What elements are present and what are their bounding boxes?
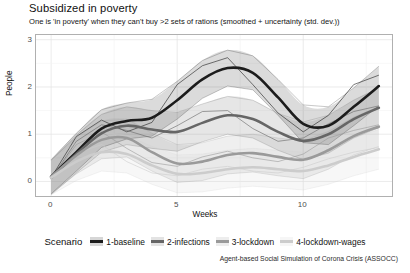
chart-figure: Subsidized in poverty One is 'in poverty… [0, 0, 410, 273]
y-tick-label: 0 [20, 176, 32, 185]
chart-caption: Agent-based Social Simulation of Corona … [220, 255, 398, 262]
legend-item-2-infections[interactable]: 2-infections [151, 236, 210, 247]
legend-item-label: 1-baseline [106, 237, 145, 247]
y-axis-label: People [5, 71, 14, 97]
legend-item-4-lockdown-wages[interactable]: 4-lockdown-wages [280, 236, 365, 247]
legend-item-label: 3-lockdown [232, 237, 274, 247]
page-title: Subsidized in poverty [29, 2, 401, 15]
legend-title: Scenario [44, 236, 82, 247]
legend-item-3-lockdown[interactable]: 3-lockdown [216, 236, 274, 247]
chart-subtitle: One is 'in poverty' when they can't buy … [29, 16, 401, 27]
legend-item-label: 4-lockdown-wages [296, 237, 365, 247]
legend: Scenario 1-baseline2-infections3-lockdow… [0, 236, 410, 247]
legend-key-icon [216, 236, 229, 247]
plot-svg [36, 35, 393, 197]
legend-key-icon [280, 236, 293, 247]
x-tick-label: 5 [166, 200, 186, 209]
y-tick-label: 1 [20, 129, 32, 138]
y-axis-ticks: 0123 [16, 0, 32, 273]
y-tick-label: 3 [20, 34, 32, 43]
title-block: Subsidized in poverty One is 'in poverty… [29, 2, 401, 27]
x-tick-label: 0 [40, 200, 60, 209]
x-axis-ticks: 0510 [0, 198, 410, 212]
legend-item-label: 2-infections [167, 237, 210, 247]
y-tick-label: 2 [20, 81, 32, 90]
x-tick-label: 10 [292, 200, 312, 209]
plot-panel [35, 34, 393, 197]
legend-key-icon [90, 236, 103, 247]
legend-item-1-baseline[interactable]: 1-baseline [90, 236, 145, 247]
legend-key-icon [151, 236, 164, 247]
